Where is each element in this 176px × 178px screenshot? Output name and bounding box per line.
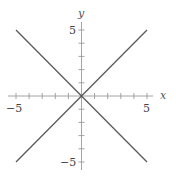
y-tick-label-min: −5 xyxy=(60,156,76,169)
y-tick-label-max: 5 xyxy=(69,24,76,37)
x-tick-label-max: 5 xyxy=(143,102,150,115)
x-tick-label-min: −5 xyxy=(6,102,22,115)
x-axis-label: x xyxy=(160,89,167,102)
coordinate-plot: y x 5 −5 −5 5 xyxy=(0,0,176,178)
y-axis-label: y xyxy=(77,7,85,20)
